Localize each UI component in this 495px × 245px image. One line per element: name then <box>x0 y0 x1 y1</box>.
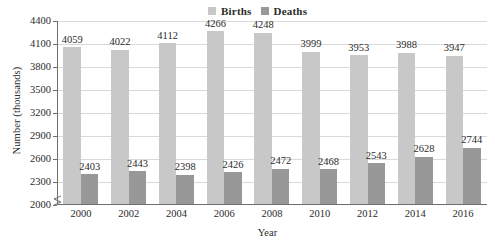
y-axis-tick-label: 2000 <box>30 200 51 211</box>
x-axis-tick-label: 2000 <box>70 209 91 220</box>
y-axis-tick-label: 3200 <box>30 108 51 119</box>
x-axis-tick-label: 2004 <box>166 209 187 220</box>
x-axis-tick-label: 2016 <box>453 209 474 220</box>
legend-swatch-icon <box>208 7 216 15</box>
x-axis-tick-label: 2010 <box>309 209 330 220</box>
plot-frame <box>57 21 487 205</box>
chart-figure: BirthsDeaths Number (thousands) Year 200… <box>0 0 495 245</box>
x-axis-title: Year <box>0 227 495 238</box>
y-axis-tick-label: 3500 <box>30 85 51 96</box>
y-axis-tick-label: 2600 <box>30 154 51 165</box>
x-axis-tick-label: 2008 <box>262 209 283 220</box>
legend-item-deaths[interactable]: Deaths <box>261 6 308 17</box>
y-axis-title: Number (thousands) <box>11 41 22 181</box>
x-axis-tick-label: 2014 <box>405 209 426 220</box>
legend-swatch-icon <box>261 7 269 15</box>
axis-break-icon <box>53 193 62 206</box>
x-axis-tick-label: 2006 <box>214 209 235 220</box>
legend-label: Births <box>221 6 252 17</box>
chart-legend: BirthsDeaths <box>208 4 307 18</box>
legend-item-births[interactable]: Births <box>208 6 252 17</box>
x-axis-tick-label: 2012 <box>357 209 378 220</box>
plot-area: 200023002600290032003500380041004400 405… <box>57 21 487 205</box>
x-axis-tick-label: 2002 <box>118 209 139 220</box>
y-axis-tick-label: 2900 <box>30 131 51 142</box>
y-axis-tick-label: 3800 <box>30 62 51 73</box>
legend-label: Deaths <box>274 6 308 17</box>
y-axis-tick-label: 4400 <box>30 16 51 27</box>
y-axis-tick-label: 2300 <box>30 177 51 188</box>
y-axis-tick-label: 4100 <box>30 39 51 50</box>
